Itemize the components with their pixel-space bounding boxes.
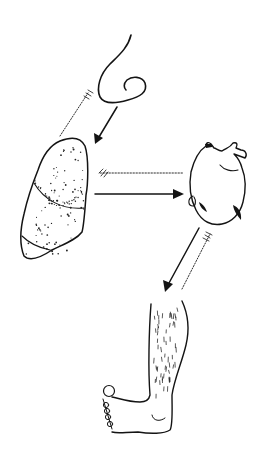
stipple-dot bbox=[83, 208, 84, 209]
stipple-dot bbox=[46, 243, 48, 245]
stipple-dot bbox=[53, 175, 54, 176]
stipple-dot bbox=[49, 200, 50, 201]
dotted-arrow-heart-to-lungs bbox=[99, 169, 183, 177]
stipple-dot bbox=[69, 201, 70, 202]
hair-stroke bbox=[157, 331, 158, 335]
stipple-dot bbox=[75, 221, 76, 222]
stipple-dot bbox=[36, 217, 37, 218]
hair-stroke bbox=[166, 367, 167, 372]
stipple-dot bbox=[43, 246, 45, 248]
diagram-canvas bbox=[0, 0, 261, 464]
stipple-dot bbox=[35, 223, 37, 225]
stipple-dot bbox=[73, 180, 74, 181]
stipple-dot bbox=[59, 195, 60, 196]
stipple-dot bbox=[47, 226, 49, 228]
stipple-dot bbox=[62, 202, 63, 203]
stipple-dot bbox=[40, 188, 41, 189]
arrowhead bbox=[94, 133, 103, 144]
hair-stroke bbox=[161, 347, 162, 352]
stipple-dot bbox=[60, 154, 62, 156]
stipple-dot bbox=[44, 224, 45, 225]
stipple-dot bbox=[82, 179, 83, 180]
stipple-dot bbox=[70, 151, 71, 152]
lungs-icon bbox=[21, 138, 88, 259]
stipple-dot bbox=[67, 202, 68, 203]
stipple-dot bbox=[67, 224, 68, 225]
stipple-dot bbox=[56, 167, 57, 168]
stipple-dot bbox=[64, 170, 65, 171]
feather-mark bbox=[203, 232, 212, 241]
stipple-dot bbox=[59, 207, 60, 208]
stipple-dot bbox=[70, 212, 71, 213]
stipple-dot bbox=[83, 200, 84, 201]
stipple-dot bbox=[51, 249, 52, 250]
stipple-dot bbox=[26, 253, 27, 254]
arrow-heart-to-leg bbox=[163, 228, 199, 292]
arrowhead bbox=[163, 280, 173, 292]
stipple-dot bbox=[64, 202, 65, 203]
hair-stroke bbox=[170, 323, 171, 327]
stipple-dot bbox=[46, 248, 48, 250]
stipple-dot bbox=[48, 202, 50, 204]
stipple-dot bbox=[59, 205, 60, 206]
stipple-dot bbox=[77, 197, 78, 198]
stipple-dot bbox=[41, 210, 42, 211]
stipple-dot bbox=[74, 197, 75, 198]
stipple-dot bbox=[36, 241, 37, 242]
stipple-dot bbox=[45, 193, 46, 194]
stipple-dot bbox=[81, 191, 82, 192]
stipple-dot bbox=[46, 234, 48, 236]
stipple-dot bbox=[56, 205, 57, 206]
stipple-dot bbox=[72, 191, 74, 193]
stipple-dot bbox=[80, 207, 81, 208]
stipple-dot bbox=[36, 235, 37, 236]
stipple-dot bbox=[37, 229, 38, 230]
stipple-dot bbox=[28, 243, 30, 245]
stipple-dot bbox=[57, 253, 59, 255]
stipple-dot bbox=[63, 150, 64, 151]
stipple-dot bbox=[46, 195, 47, 196]
stipple-dot bbox=[70, 237, 71, 238]
stipple-dot bbox=[72, 147, 73, 148]
stipple-dot bbox=[54, 192, 55, 193]
arrow-nose-to-lungs bbox=[94, 107, 117, 144]
stipple-dot bbox=[80, 190, 81, 191]
stipple-dot bbox=[49, 198, 50, 199]
stipple-dot bbox=[52, 253, 54, 255]
stipple-dot bbox=[40, 230, 41, 231]
hair-stroke bbox=[175, 314, 176, 318]
stipple-dot bbox=[53, 168, 54, 169]
stipple-dot bbox=[71, 200, 72, 201]
stipple-dot bbox=[71, 203, 72, 204]
nose-icon bbox=[98, 35, 145, 103]
stipple-dot bbox=[54, 190, 56, 192]
stipple-dot bbox=[48, 242, 50, 244]
stipple-dot bbox=[74, 188, 76, 190]
arrow-lungs-to-heart bbox=[95, 189, 184, 199]
hair-stroke bbox=[156, 377, 157, 382]
hair-stroke bbox=[169, 370, 170, 373]
stipple-dot bbox=[51, 250, 53, 252]
stipple-dot bbox=[75, 201, 76, 202]
stipple-dot bbox=[51, 200, 52, 201]
stipple-dot bbox=[73, 149, 75, 151]
stipple-dot bbox=[69, 203, 70, 204]
stipple-dot bbox=[80, 152, 82, 154]
stipple-dot bbox=[44, 207, 45, 208]
stipple-dot bbox=[66, 250, 68, 252]
stipple-dot bbox=[51, 223, 52, 224]
stipple-dot bbox=[75, 159, 77, 161]
toes bbox=[103, 399, 113, 429]
stipple-dot bbox=[54, 204, 55, 205]
stipple-dot bbox=[38, 227, 40, 229]
stipple-dot bbox=[38, 186, 39, 187]
arrowhead bbox=[173, 189, 184, 199]
heart-icon bbox=[189, 143, 246, 225]
hair-stroke bbox=[162, 357, 163, 361]
stipple-dot bbox=[50, 183, 52, 185]
stipple-dot bbox=[35, 183, 36, 184]
hair-stroke bbox=[173, 322, 174, 326]
stipple-dot bbox=[54, 243, 56, 245]
stipple-dot bbox=[63, 182, 64, 183]
stipple-dot bbox=[55, 177, 56, 178]
